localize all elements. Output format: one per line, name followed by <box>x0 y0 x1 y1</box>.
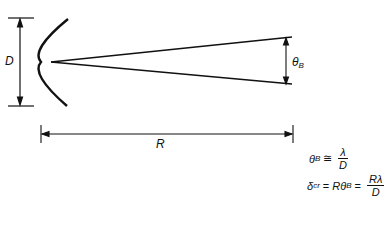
range-label: R <box>156 137 165 151</box>
eq2-fraction: Rλ D <box>367 173 384 198</box>
eq2-lhs-subscript: cr <box>313 181 320 190</box>
eq2-middle-subscript: B <box>346 181 351 190</box>
cross-range-equation: δcr = RθB = Rλ D <box>307 173 384 198</box>
beamwidth-equation: θB ≅ λ D <box>309 146 348 171</box>
eq2-operator1: = <box>323 180 329 192</box>
eq2-denominator: D <box>372 186 380 198</box>
eq1-operator: ≅ <box>323 152 332 165</box>
beamwidth-dimension <box>284 38 289 84</box>
aperture-diameter-label: D <box>5 54 14 68</box>
eq1-lhs-subscript: B <box>315 154 320 163</box>
eq2-middle: Rθ <box>332 180 346 192</box>
eq1-numerator: λ <box>338 146 347 159</box>
eq2-numerator: Rλ <box>367 173 384 186</box>
beamwidth-label: θB <box>292 55 304 70</box>
beamwidth-subscript: B <box>299 61 304 70</box>
range-dimension <box>41 125 293 143</box>
eq1-fraction: λ D <box>338 146 347 171</box>
beam-lines <box>51 37 292 84</box>
eq2-operator2: = <box>355 180 361 192</box>
eq1-denominator: D <box>339 159 347 171</box>
